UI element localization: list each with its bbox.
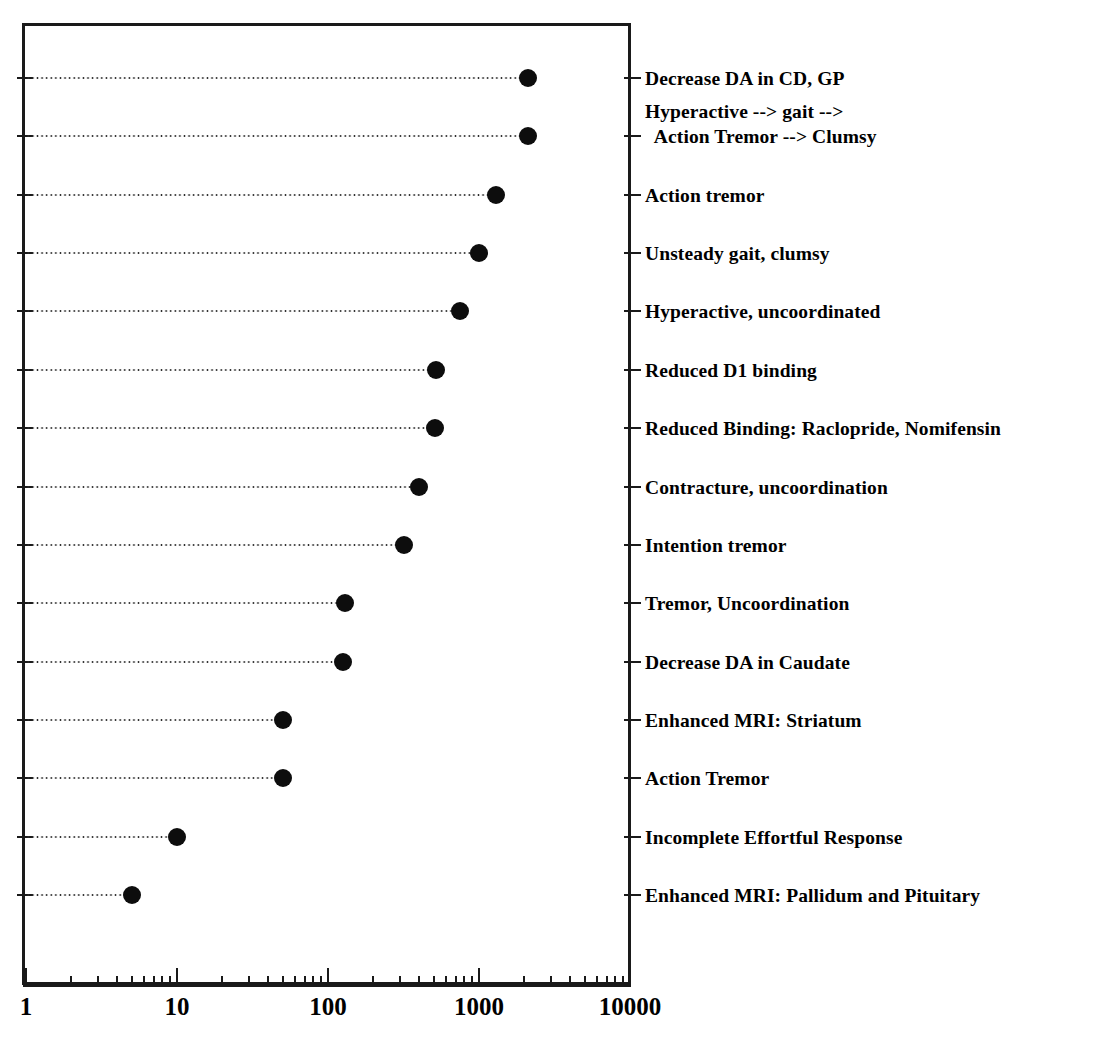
x-tick-minor: [294, 976, 296, 987]
x-tick-minor: [614, 976, 616, 987]
leader-line: [26, 77, 522, 79]
x-tick-major: [478, 968, 480, 987]
x-tick-label: 1: [20, 992, 33, 1022]
x-tick-minor: [282, 976, 284, 987]
x-tick-major: [327, 968, 329, 987]
x-tick-minor: [97, 976, 99, 987]
x-tick-minor: [221, 976, 223, 987]
x-tick-minor: [463, 976, 465, 987]
data-point-marker: [410, 478, 428, 496]
row-label: Enhanced MRI: Striatum: [645, 707, 862, 732]
right-axis-tick: [624, 194, 641, 196]
right-axis-tick: [624, 369, 641, 371]
x-tick-label: 10000: [599, 992, 662, 1022]
leader-line: [26, 894, 126, 896]
leader-line: [26, 661, 337, 663]
leader-line: [26, 602, 339, 604]
data-point-marker: [274, 711, 292, 729]
right-axis-tick: [624, 602, 641, 604]
leader-line: [26, 486, 413, 488]
row-label: Action Tremor: [645, 766, 769, 791]
x-tick-minor: [418, 976, 420, 987]
right-axis-tick: [624, 836, 641, 838]
x-tick-major: [629, 968, 631, 987]
right-axis-tick: [624, 719, 641, 721]
x-tick-minor: [471, 976, 473, 987]
right-axis-tick: [624, 777, 641, 779]
row-label: Incomplete Effortful Response: [645, 824, 902, 849]
row-label: Decrease DA in CD, GP: [645, 66, 844, 91]
row-label: Decrease DA in Caudate: [645, 649, 850, 674]
data-point-marker: [274, 769, 292, 787]
x-tick-major: [25, 968, 27, 987]
x-tick-minor: [584, 976, 586, 987]
x-tick-minor: [161, 976, 163, 987]
x-tick-minor: [455, 976, 457, 987]
row-label: Hyperactive, uncoordinated: [645, 299, 881, 324]
x-tick-minor: [550, 976, 552, 987]
data-point-marker: [487, 186, 505, 204]
right-axis-tick: [624, 661, 641, 663]
leader-line: [26, 719, 277, 721]
x-tick-minor: [267, 976, 269, 987]
x-tick-minor: [70, 976, 72, 987]
x-tick-minor: [569, 976, 571, 987]
x-tick-minor: [606, 976, 608, 987]
row-label: Reduced D1 binding: [645, 357, 817, 382]
x-tick-minor: [169, 976, 171, 987]
right-axis-tick: [624, 135, 641, 137]
x-tick-minor: [445, 976, 447, 987]
data-point-marker: [123, 886, 141, 904]
leader-line: [26, 544, 398, 546]
x-tick-minor: [320, 976, 322, 987]
right-axis-tick: [624, 427, 641, 429]
plot-frame: [22, 23, 631, 985]
row-label: Action tremor: [645, 182, 765, 207]
leader-line: [26, 252, 473, 254]
x-tick-minor: [143, 976, 145, 987]
right-axis-tick: [624, 544, 641, 546]
row-label: Unsteady gait, clumsy: [645, 241, 830, 266]
data-point-marker: [426, 419, 444, 437]
x-tick-minor: [304, 976, 306, 987]
leader-line: [26, 836, 171, 838]
data-point-marker: [519, 69, 537, 87]
data-point-marker: [427, 361, 445, 379]
right-axis-tick: [624, 77, 641, 79]
row-label: Reduced Binding: Raclopride, Nomifensin: [645, 416, 1001, 441]
x-tick-label: 10: [165, 992, 190, 1022]
x-tick-minor: [433, 976, 435, 987]
data-point-marker: [334, 653, 352, 671]
leader-line: [26, 310, 454, 312]
data-point-marker: [519, 127, 537, 145]
leader-line: [26, 427, 429, 429]
x-tick-minor: [596, 976, 598, 987]
row-label: Enhanced MRI: Pallidum and Pituitary: [645, 883, 980, 908]
right-axis-tick: [624, 252, 641, 254]
row-label: Contracture, uncoordination: [645, 474, 888, 499]
leader-line: [26, 194, 490, 196]
dot-plot-chart: Decrease DA in CD, GPHyperactive --> gai…: [0, 0, 1096, 1045]
row-label: Intention tremor: [645, 532, 787, 557]
row-label: Hyperactive --> gait --> Action Tremor -…: [645, 99, 877, 149]
x-tick-label: 100: [309, 992, 347, 1022]
leader-line: [26, 369, 430, 371]
leader-line: [26, 135, 522, 137]
data-point-marker: [470, 244, 488, 262]
x-tick-minor: [622, 976, 624, 987]
x-tick-label: 1000: [454, 992, 504, 1022]
right-axis-tick: [624, 894, 641, 896]
x-tick-minor: [116, 976, 118, 987]
x-tick-minor: [248, 976, 250, 987]
x-tick-minor: [399, 976, 401, 987]
x-tick-minor: [372, 976, 374, 987]
right-axis-tick: [624, 310, 641, 312]
x-tick-minor: [523, 976, 525, 987]
x-tick-minor: [153, 976, 155, 987]
row-label: Tremor, Uncoordination: [645, 591, 849, 616]
data-point-marker: [168, 828, 186, 846]
right-axis-tick: [624, 486, 641, 488]
x-tick-minor: [312, 976, 314, 987]
x-tick-major: [176, 968, 178, 987]
x-tick-minor: [131, 976, 133, 987]
